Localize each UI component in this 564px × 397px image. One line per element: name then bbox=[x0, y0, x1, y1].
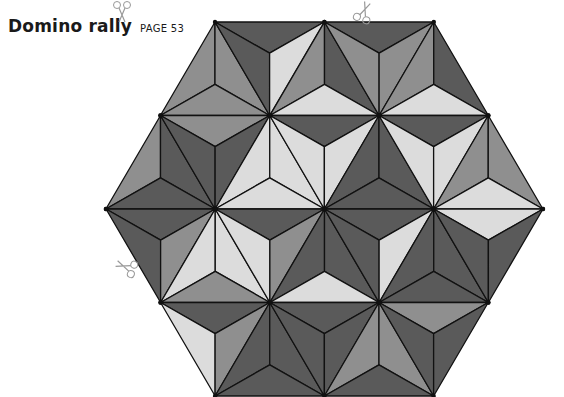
vertex-dot bbox=[268, 113, 272, 117]
domino-hexagon-puzzle bbox=[0, 0, 564, 397]
vertex-dot bbox=[322, 207, 326, 211]
vertex-dot bbox=[158, 113, 162, 117]
vertex-dot bbox=[541, 207, 545, 211]
vertex-dot bbox=[377, 113, 381, 117]
scissors-icon bbox=[114, 2, 131, 23]
vertex-dot bbox=[432, 207, 436, 211]
vertex-dot bbox=[432, 20, 436, 24]
scissors-icon bbox=[352, 0, 375, 25]
vertex-dot bbox=[213, 20, 217, 24]
vertex-dot bbox=[213, 207, 217, 211]
puzzle-pieces bbox=[104, 20, 546, 397]
vertex-dot bbox=[377, 300, 381, 304]
vertex-dot bbox=[486, 300, 490, 304]
vertex-dot bbox=[322, 20, 326, 24]
vertex-dot bbox=[158, 300, 162, 304]
vertex-dot bbox=[104, 207, 108, 211]
vertex-dot bbox=[486, 113, 490, 117]
vertex-dot bbox=[268, 300, 272, 304]
